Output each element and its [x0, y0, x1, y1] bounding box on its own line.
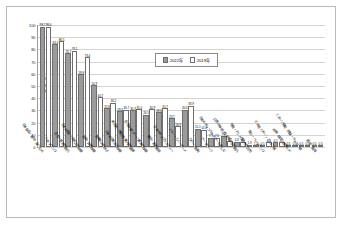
bar-value-label: 15.1 — [195, 125, 201, 129]
bar-2019[interactable]: 86.5 — [59, 41, 65, 147]
bar-group: 0.50.5 — [311, 25, 324, 147]
bar-value-label: 31.7 — [162, 105, 168, 109]
x-label-cell: 美術館・博物館・動植物園等 — [129, 148, 142, 222]
x-label-cell: スキー・スノーボード — [181, 148, 194, 222]
bar-value-label: 31.0 — [136, 106, 142, 110]
bar-group: 30.533.9 — [181, 25, 194, 147]
bar-group: 0.50.5 — [298, 25, 311, 147]
bar-group: 98.798.6 — [39, 25, 52, 147]
bar-value-label: 50.9 — [91, 82, 97, 86]
legend-item-2022: 2022年 — [163, 57, 183, 63]
legend-swatch-2022 — [163, 57, 168, 62]
x-label-cell: スポーツ観戦（相撲・サッカー等） — [298, 148, 311, 222]
x-label-cell: 日本の日常生活体験 — [116, 148, 129, 222]
y-axis-tick-label: 50 — [31, 84, 35, 89]
bar-value-label: 30.9 — [149, 106, 155, 110]
chart-frame: 割合・％ 1009080706050403020100 98.798.684.4… — [6, 6, 336, 218]
y-axis-tick-label: 80 — [31, 47, 35, 52]
legend-swatch-2019 — [190, 57, 195, 62]
bar-value-label: 84.4 — [53, 41, 59, 45]
y-axis-tick-label: 60 — [31, 71, 35, 76]
y-axis-tick-label: 40 — [31, 96, 35, 101]
bar-2019[interactable]: 0.5 — [318, 145, 324, 147]
bar-value-label: 30.3 — [130, 107, 136, 111]
legend-item-2019: 2019年 — [190, 57, 210, 63]
x-label-cell: 日本のポップカルチャーを楽しむ — [220, 148, 233, 222]
x-label-cell: テーマパーク — [207, 148, 220, 222]
x-label-cell: 日本のポップカルチャー — [168, 148, 181, 222]
x-label-cell: その他スポーツ（ゴルフ等） — [272, 148, 285, 222]
x-label-cell: 温泉・旅館体験 — [90, 148, 103, 222]
y-axis-tick-label: 70 — [31, 59, 35, 64]
bar-value-label: 0.5 — [319, 142, 323, 146]
x-label-cell: 舞台・音楽鑑賞 — [155, 148, 168, 222]
bar-value-label: 26.5 — [143, 111, 149, 115]
y-axis-tick-label: 20 — [31, 120, 35, 125]
bar-series-container: 98.798.684.486.576.779.159.873.450.940.7… — [38, 25, 325, 147]
x-label-cell: 四季の体感・花見等の季節観光 — [233, 148, 246, 222]
plot-area: 1009080706050403020100 98.798.684.486.57… — [37, 25, 325, 148]
x-label-cell: 登山・トレッキング — [259, 148, 272, 222]
bar-value-label: 76.7 — [65, 50, 71, 54]
x-label-cell: 映画・アニメ縁の地を訪問 — [246, 148, 259, 222]
bar-value-label: 16.9 — [175, 123, 181, 127]
y-axis-tick-label: 100 — [29, 23, 36, 28]
legend-label-2019: 2019年 — [197, 57, 210, 63]
y-axis-tick-label: 30 — [31, 108, 35, 113]
x-axis-labels: 日本食品・食材・食べものショッピング自然・景勝地観光日本の歴史・伝統文化体験温泉… — [37, 148, 325, 222]
bar-2022[interactable]: 30.5 — [182, 110, 188, 147]
bar-value-label: 31.8 — [104, 105, 110, 109]
bar-value-label: 86.5 — [59, 38, 65, 42]
y-axis-tick-label: 90 — [31, 35, 35, 40]
x-label-cell: スポーツ観戦 — [194, 148, 207, 222]
bar-value-label: 4.1 — [274, 139, 278, 143]
bar-group: 50.940.7 — [91, 25, 104, 147]
bar-value-label: 29.4 — [117, 108, 123, 112]
bar-value-label: 23.7 — [169, 115, 175, 119]
bar-group: 59.873.4 — [78, 25, 91, 147]
bar-value-label: 98.7 — [40, 23, 46, 27]
bar-value-label: 79.1 — [72, 47, 78, 51]
x-label-cell: 日本食品・食材・食べもの — [38, 148, 51, 222]
bar-2019[interactable]: 98.6 — [46, 27, 52, 147]
bar-value-label: 40.7 — [98, 94, 104, 98]
bar-value-label: 28.6 — [156, 109, 162, 113]
x-label-cell: 繁華街の街歩き — [103, 148, 116, 222]
bar-value-label: 59.8 — [78, 71, 84, 75]
x-label-cell: 日本の歴史・伝統文化体験 — [77, 148, 90, 222]
bar-value-label: 4.3 — [235, 138, 239, 142]
chart-container: 割合・％ 1009080706050403020100 98.798.684.4… — [7, 7, 335, 217]
x-label-cell: 自然体験ツアー・農漁村体験 — [142, 148, 155, 222]
chart-legend: 2022年 2019年 — [155, 53, 218, 67]
x-label-cell: ショッピング — [51, 148, 64, 222]
x-label-cell: 語学・教育 — [311, 148, 324, 222]
bar-value-label: 98.6 — [46, 23, 52, 27]
bar-value-label: 30.5 — [182, 106, 188, 110]
bar-2019[interactable]: 79.1 — [72, 51, 78, 148]
bar-value-label: 33.9 — [188, 102, 194, 106]
bar-value-label: 36.2 — [111, 99, 117, 103]
x-label-cell: 治療・検診・健康ケア — [285, 148, 298, 222]
bar-2022[interactable]: 98.7 — [40, 27, 46, 147]
bar-value-label: 73.4 — [85, 54, 91, 58]
bar-value-label: 30.7 — [123, 106, 129, 110]
legend-label-2022: 2022年 — [170, 57, 183, 63]
x-label-cell: 自然・景勝地観光 — [64, 148, 77, 222]
